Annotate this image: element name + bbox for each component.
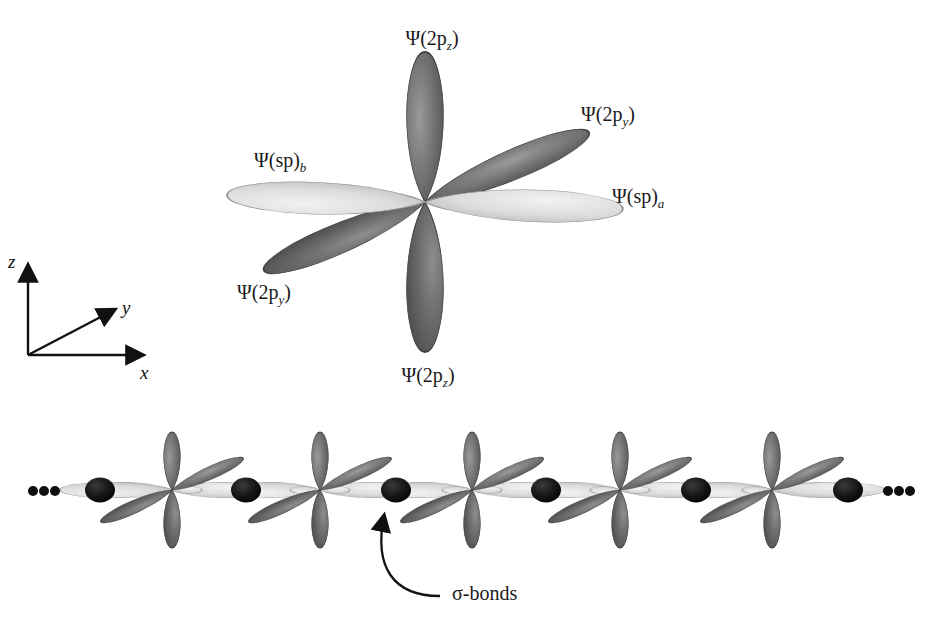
sigma-bond-0	[85, 478, 115, 503]
axis-label-y: y	[122, 298, 130, 317]
chain-pz-down-3	[612, 490, 629, 548]
chain-pz-down-1	[312, 490, 329, 548]
chain-pz-up-1	[312, 432, 329, 490]
chain-ellipsis-left-dot-0	[28, 486, 38, 496]
chain-pz-down-0	[164, 490, 181, 548]
sp-hybrid-orbital-set	[227, 52, 624, 352]
label-sp-b: Ψ(sp)b	[254, 150, 306, 174]
linear-sp-chain	[28, 432, 915, 596]
label-py-left: Ψ(2py)	[237, 282, 291, 306]
orbital-pz-up	[407, 52, 444, 202]
sigma-bond-callout-leader	[381, 516, 440, 596]
sigma-bonds-label: σ-bonds	[452, 583, 517, 603]
chain-pz-down-4	[764, 490, 781, 548]
sigma-bond-4	[681, 478, 711, 503]
chain-pz-up-0	[164, 432, 181, 490]
chain-pz-up-3	[612, 432, 629, 490]
chain-pz-down-2	[464, 490, 481, 548]
orbital-pz-down	[407, 202, 444, 352]
chain-pz-up-2	[464, 432, 481, 490]
chain-ellipsis-right-dot-0	[883, 486, 893, 496]
chain-pz-up-4	[764, 432, 781, 490]
axis-label-x: x	[140, 363, 148, 382]
axis-label-z: z	[8, 252, 15, 271]
sigma-bond-5	[833, 478, 863, 503]
chain-ellipsis-right-dot-1	[894, 486, 904, 496]
label-pz-top: Ψ(2pz)	[405, 28, 458, 52]
label-py-right: Ψ(2py)	[581, 104, 635, 128]
orbital-vector-layer	[0, 0, 943, 635]
sigma-bond-1	[231, 478, 261, 503]
label-pz-bottom: Ψ(2pz)	[401, 365, 454, 389]
axis-y-line	[28, 310, 114, 355]
sigma-bond-3	[531, 478, 561, 503]
chain-ellipsis-right-dot-2	[905, 486, 915, 496]
chain-ellipsis-left-dot-2	[50, 486, 60, 496]
sigma-bond-2	[381, 478, 411, 503]
chain-ellipsis-left-dot-1	[39, 486, 49, 496]
label-sp-a: Ψ(sp)a	[612, 186, 664, 210]
figure-canvas: Ψ(2pz) Ψ(2py) Ψ(sp)b Ψ(sp)a Ψ(2py) Ψ(2pz…	[0, 0, 943, 635]
